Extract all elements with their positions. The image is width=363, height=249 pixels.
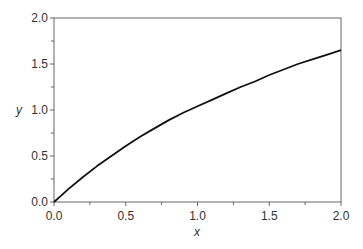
y-tick-label: 0.0 <box>31 195 48 209</box>
plot-border <box>54 18 341 202</box>
tick-labels: 0.00.51.01.52.00.00.51.01.52.0 <box>31 11 349 223</box>
y-tick-label: 1.0 <box>31 103 48 117</box>
line-chart: 0.00.51.01.52.00.00.51.01.52.0 x y <box>0 0 363 249</box>
x-tick-label: 0.5 <box>117 209 134 223</box>
x-tick-label: 1.5 <box>261 209 278 223</box>
y-axis-label: y <box>15 103 23 117</box>
plot-frame <box>54 18 341 202</box>
y-tick-label: 1.5 <box>31 57 48 71</box>
y-tick-label: 0.5 <box>31 149 48 163</box>
y-tick-label: 2.0 <box>31 11 48 25</box>
series-line <box>54 50 341 202</box>
x-tick-label: 2.0 <box>333 209 350 223</box>
axis-ticks <box>50 18 341 206</box>
data-series <box>54 50 341 202</box>
x-axis-label: x <box>193 225 201 239</box>
x-tick-label: 1.0 <box>189 209 206 223</box>
x-tick-label: 0.0 <box>46 209 63 223</box>
